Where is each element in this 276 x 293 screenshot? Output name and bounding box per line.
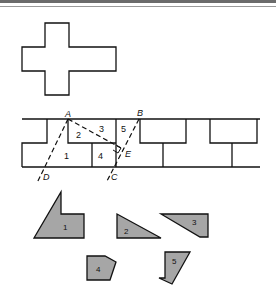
piece-label-5: 5 (172, 257, 177, 266)
piece-3: 3 (161, 214, 208, 237)
point-label-d: D (43, 172, 50, 182)
piece-5: 5 (159, 252, 190, 284)
region-label-3: 3 (99, 124, 104, 134)
region-label-4: 4 (98, 151, 103, 161)
brick-strip (22, 119, 260, 167)
point-label-c: C (111, 172, 118, 182)
point-label-a: A (64, 109, 71, 119)
region-label-2: 2 (76, 130, 81, 140)
piece-2: 2 (117, 214, 161, 238)
point-label-b: B (137, 108, 143, 118)
piece-4: 4 (87, 256, 116, 280)
piece-1: 1 (34, 192, 84, 238)
piece-label-1: 1 (63, 223, 68, 232)
region-label-1: 1 (64, 151, 69, 161)
greek-cross (22, 23, 116, 95)
region-label-5: 5 (121, 124, 126, 134)
piece-label-2: 2 (124, 227, 129, 236)
piece-label-4: 4 (96, 265, 101, 274)
dissection-diagram: A B C D E 1 2 3 4 5 1 2 3 4 5 (0, 0, 276, 293)
point-label-e: E (125, 149, 132, 159)
piece-label-3: 3 (192, 218, 197, 227)
